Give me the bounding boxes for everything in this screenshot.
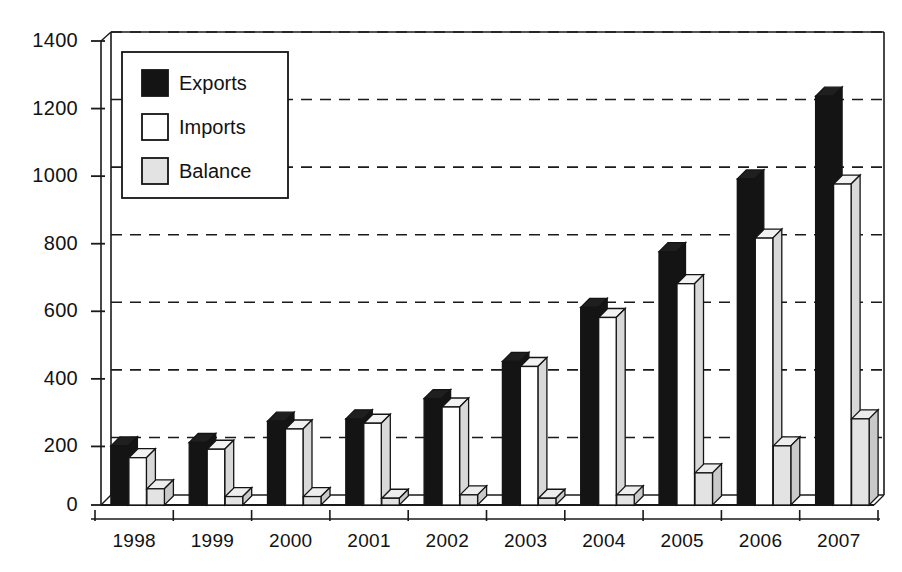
x-tick-label-2005: 2005 xyxy=(638,531,726,551)
frame-line xyxy=(101,32,111,41)
y-tick-label: 1200 xyxy=(0,98,78,118)
frame-line xyxy=(101,495,111,505)
bar-imports-2003 xyxy=(520,357,547,505)
bar-chart: 0200400600800100012001400 19981999200020… xyxy=(0,0,902,572)
bar-group-2005 xyxy=(659,243,722,505)
x-tick-label-2006: 2006 xyxy=(717,531,805,551)
bar-balance-2007 xyxy=(852,410,879,505)
chart-canvas xyxy=(0,0,902,572)
x-tick-label-1998: 1998 xyxy=(90,531,178,551)
x-tick-label-2003: 2003 xyxy=(482,531,570,551)
bar-group-2002 xyxy=(424,390,487,505)
y-tick-label: 600 xyxy=(0,300,78,320)
bar-imports-2004 xyxy=(599,308,626,505)
bar-balance-2005 xyxy=(695,464,722,505)
x-tick-label-1999: 1999 xyxy=(168,531,256,551)
bar-group-1999 xyxy=(189,433,252,505)
bar-imports-2001 xyxy=(364,414,391,505)
bar-group-2004 xyxy=(581,298,644,505)
x-tick-label-2007: 2007 xyxy=(795,531,883,551)
y-tick-label: 800 xyxy=(0,233,78,253)
bar-group-2000 xyxy=(268,412,331,505)
bar-group-2007 xyxy=(816,87,879,505)
legend-swatch-imports xyxy=(142,114,168,140)
x-tick-label-2000: 2000 xyxy=(247,531,335,551)
legend-label-imports: Imports xyxy=(179,117,246,137)
bar-group-2001 xyxy=(346,410,409,505)
bar-imports-2002 xyxy=(442,398,469,505)
y-tick-label: 400 xyxy=(0,368,78,388)
legend-label-exports: Exports xyxy=(179,73,247,93)
x-tick-label-2001: 2001 xyxy=(325,531,413,551)
bar-group-1998 xyxy=(111,437,173,505)
y-tick-label: 0 xyxy=(0,494,78,514)
y-tick-label: 1000 xyxy=(0,165,78,185)
bar-group-2006 xyxy=(737,170,800,505)
x-tick-label-2004: 2004 xyxy=(560,531,648,551)
legend-swatch-exports xyxy=(142,70,168,96)
y-tick-label: 1400 xyxy=(0,30,78,50)
legend-label-balance: Balance xyxy=(179,161,251,181)
bar-balance-2006 xyxy=(773,437,800,505)
y-tick-label: 200 xyxy=(0,435,78,455)
bar-group-2003 xyxy=(502,352,565,505)
legend-swatch-balance xyxy=(142,158,168,184)
x-tick-label-2002: 2002 xyxy=(403,531,491,551)
